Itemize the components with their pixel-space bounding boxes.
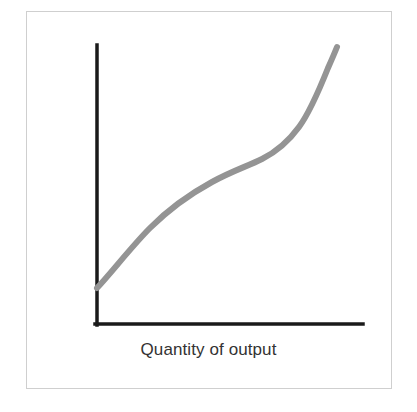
x-axis-label: Quantity of output xyxy=(0,340,417,360)
figure-root: Quantity of output Total cost xyxy=(0,0,417,412)
series-group xyxy=(97,47,337,288)
total-cost-curve xyxy=(97,47,337,288)
